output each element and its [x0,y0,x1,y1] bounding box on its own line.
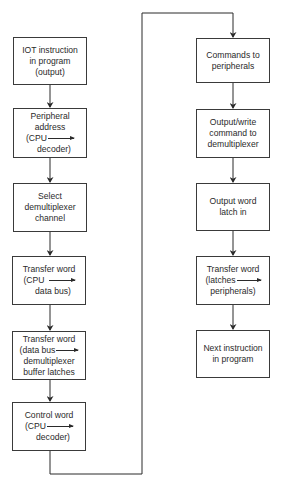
box-text-line: Transfer word [23,264,76,275]
box-text-line: (output) [35,67,65,78]
box-text-line: demultiplexer [207,139,258,150]
box-text-line: (latches [205,275,235,286]
flow-box-control-word: Control word (CPU decoder) [12,402,86,451]
box-text-line: latch in [219,207,246,218]
flow-box-peripheral-address: Peripheral address (CPU decoder) [13,108,87,158]
flow-box-output-word-latch-in: Output word latch in [196,183,270,231]
box-text-line: address [35,122,66,133]
flow-box-transfer-word-cpu-databus: Transfer word (CPU data bus) [12,256,86,305]
box-text-line: IOT instruction [22,45,78,56]
box-text-arrow-line: (data bus [20,345,79,356]
right-arrow-icon [49,280,75,281]
box-text-line: Output word [210,196,257,207]
box-text-line: buffer latches [23,367,74,378]
box-text-line: Transfer word [207,264,260,275]
right-arrow-icon [48,138,74,139]
right-arrow-icon [237,280,261,281]
box-text-arrow-line: (CPU [23,275,74,286]
flow-box-transfer-word-latches-peripherals: Transfer word (latches peripherals) [196,256,270,305]
box-text-line: (CPU [25,421,46,432]
right-arrow-icon [56,350,78,351]
box-text-arrow-line: (CPU [26,133,74,144]
box-text-line: Select [38,191,62,202]
box-text-line: in program [212,354,253,365]
right-arrow-icon [47,426,73,427]
box-text-line: in program [29,56,70,67]
box-text-arrow-line: (latches [205,275,260,286]
box-text-line: channel [35,213,65,224]
flow-box-next-instruction: Next instruction in program [196,330,270,378]
flow-box-transfer-word-databus-latches: Transfer word (data bus demultiplexer bu… [12,331,86,380]
box-text-line: decoder) [29,144,71,155]
box-text-line: Peripheral [30,111,69,122]
flow-box-commands-to-peripherals: Commands to peripherals [196,38,270,83]
flowchart-canvas: IOT instruction in program (output) Peri… [0,0,283,483]
box-text-line: Next instruction [203,343,262,354]
flow-box-output-write-command: Output/write command to demultiplexer [196,109,270,158]
box-text-line: Transfer word [23,334,76,345]
box-text-line: peripherals [212,61,255,72]
box-text-line: decoder) [28,432,70,443]
box-text-line: (CPU [26,133,47,144]
box-text-line: data bus) [27,286,71,297]
box-text-line: peripherals) [210,286,255,297]
box-text-arrow-line: (CPU [25,421,73,432]
box-text-line: demultiplexer [23,356,74,367]
box-text-line: Output/write [210,117,256,128]
box-text-line: command to [209,128,256,139]
flow-box-select-demultiplexer-channel: Select demultiplexer channel [13,183,87,232]
box-text-line: (data bus [20,345,56,356]
box-text-line: demultiplexer [24,202,75,213]
box-text-line: Commands to [206,50,260,61]
box-text-line: (CPU [23,275,44,286]
box-text-line: Control word [25,410,74,421]
flow-box-iot-instruction: IOT instruction in program (output) [13,37,87,85]
